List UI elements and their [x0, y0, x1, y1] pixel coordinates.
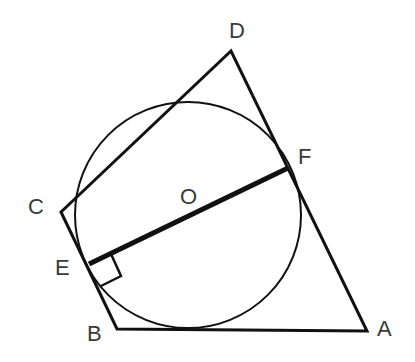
- label-c: C: [28, 196, 44, 218]
- label-e: E: [55, 257, 70, 279]
- quadrilateral-abcd: [61, 51, 367, 331]
- label-b: B: [87, 323, 102, 345]
- geometry-diagram: D F O C E B A: [0, 0, 415, 362]
- label-o: O: [180, 186, 197, 208]
- segment-ef: [89, 168, 288, 264]
- diagram-canvas: [0, 0, 415, 362]
- label-d: D: [229, 20, 245, 42]
- label-f: F: [298, 146, 311, 168]
- label-a: A: [377, 318, 392, 340]
